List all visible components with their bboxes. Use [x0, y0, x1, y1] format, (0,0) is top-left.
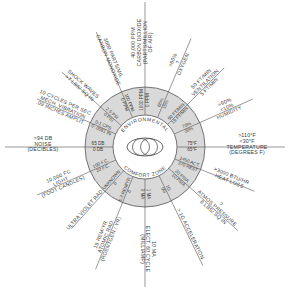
spoke-label: ULTRA VIOLET RAD: [65, 188, 104, 230]
inner-comfort-circle: [113, 115, 177, 179]
spoke-label: OF AIR): [147, 32, 153, 52]
spoke-label: (MILLIAMP): [140, 234, 146, 264]
environmental-comfort-zone-diagram: 60%15%>60%?OXYGEN50 FT/MIN15 FT/MIN50 FT…: [0, 0, 293, 298]
ring-value: 0 MA: [140, 189, 145, 201]
ring-value: 65°F: [187, 147, 197, 152]
spoke-label: (DECIBLES): [27, 146, 58, 152]
spoke-label: > 1G ACCELERATION: [176, 207, 206, 260]
ring-value: 0 DB: [93, 147, 103, 152]
ring-value: 0 PPM: [145, 93, 150, 107]
spoke-label: (DEGREES F): [229, 149, 265, 155]
diagram-canvas: 60%15%>60%?OXYGEN50 FT/MIN15 FT/MIN50 FT…: [0, 0, 293, 298]
limit-value: >60%: [167, 52, 178, 68]
spoke-label: ATMOS PRESSURE: [196, 189, 238, 228]
